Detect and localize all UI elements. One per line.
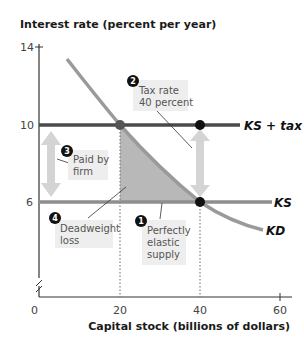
ks-label: KS [274, 196, 292, 210]
y-axis-title: Interest rate (percent per year) [20, 18, 216, 31]
svg-text:elastic: elastic [147, 237, 179, 248]
point-20-10 [115, 120, 125, 130]
x-tick-label-0: 0 [31, 304, 38, 317]
callout-tax-rate: 2 Tax rate 40 percent [127, 75, 193, 111]
svg-text:4: 4 [52, 214, 58, 223]
x-axis-title: Capital stock (billions of dollars) [88, 320, 290, 333]
ks-tax-label: KS + tax [244, 119, 303, 133]
svg-text:supply: supply [147, 249, 180, 260]
svg-text:firm: firm [73, 166, 93, 177]
x-tick-label-20: 20 [113, 304, 127, 317]
y-tick-label-6: 6 [26, 196, 33, 209]
capital-market-tax-diagram: Interest rate (percent per year) Capital… [0, 0, 304, 347]
point-40-10 [195, 120, 205, 130]
leader-elastic-supply [160, 203, 162, 219]
svg-text:2: 2 [130, 77, 136, 86]
svg-text:1: 1 [138, 217, 144, 226]
x-tick-label-60: 60 [273, 304, 287, 317]
callout-perfectly-elastic-supply: 1 Perfectly elastic supply [135, 215, 191, 265]
leader-tax-rate [157, 111, 192, 148]
callout-paid-by-firm: 3 Paid by firm [61, 145, 109, 180]
svg-text:Paid by: Paid by [73, 154, 109, 165]
svg-text:40 percent: 40 percent [139, 97, 193, 108]
svg-text:loss: loss [60, 235, 79, 246]
svg-text:Deadweight: Deadweight [60, 223, 120, 234]
kd-label: KD [266, 224, 285, 238]
x-tick-label-40: 40 [193, 304, 207, 317]
y-tick-label-14: 14 [20, 41, 34, 54]
y-tick-label-10: 10 [20, 119, 34, 132]
callout-deadweight-loss: 4 Deadweight loss [49, 212, 120, 248]
svg-text:Tax rate: Tax rate [138, 85, 179, 96]
svg-text:3: 3 [64, 147, 70, 156]
paid-by-firm-arrow-icon [41, 131, 61, 197]
svg-text:Perfectly: Perfectly [147, 225, 191, 236]
leader-paid-by-firm [57, 159, 69, 163]
tax-arrow-icon [190, 129, 210, 197]
point-40-6 [195, 197, 205, 207]
